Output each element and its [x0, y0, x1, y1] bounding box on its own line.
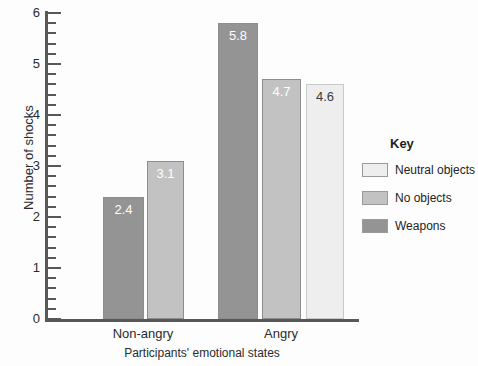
legend-item[interactable]: No objects — [362, 187, 474, 209]
y-axis-major-tick — [48, 12, 61, 14]
y-axis-tick-label: 5 — [10, 57, 40, 70]
legend-item-label: No objects — [395, 191, 452, 205]
y-axis-minor-tick — [48, 83, 56, 85]
bar: 4.6 — [306, 84, 344, 319]
y-axis-minor-tick — [48, 236, 56, 238]
legend-item[interactable]: Weapons — [362, 215, 474, 237]
y-axis-tick-label-wrap: 0 — [8, 312, 40, 325]
y-axis-minor-tick — [48, 145, 56, 147]
y-axis-major-tick — [48, 165, 61, 167]
legend-swatch — [362, 219, 388, 233]
y-axis-minor-tick — [48, 155, 56, 157]
y-axis-tick-label-wrap: 6 — [8, 6, 40, 19]
x-axis-title: Participants' emotional states — [45, 346, 359, 360]
y-axis-major-tick — [48, 216, 61, 218]
y-axis-tick-label-wrap: 1 — [8, 261, 40, 274]
y-axis-minor-tick — [48, 226, 56, 228]
y-axis-minor-tick — [48, 53, 56, 55]
y-axis-major-tick — [48, 267, 61, 269]
y-axis-minor-tick — [48, 257, 56, 259]
legend-item-label: Weapons — [395, 219, 445, 233]
bar-chart: 0123456 Number of shocks Non-angryAngry … — [0, 0, 478, 366]
bar-value-label: 2.4 — [104, 202, 143, 217]
y-axis-minor-tick — [48, 196, 56, 198]
x-axis-category-label: Non-angry — [83, 326, 203, 341]
y-axis-minor-tick — [48, 22, 56, 24]
y-axis-minor-tick — [48, 104, 56, 106]
y-axis-minor-tick — [48, 32, 56, 34]
y-axis-tick-label: 6 — [10, 6, 40, 19]
bar-value-label: 3.1 — [148, 166, 183, 181]
y-axis-minor-tick — [48, 43, 56, 45]
bar: 3.1 — [147, 161, 184, 319]
y-axis-tick-label: 1 — [10, 261, 40, 274]
legend-title: Key — [390, 136, 474, 151]
legend-item-label: Neutral objects — [395, 163, 475, 177]
y-axis-minor-tick — [48, 277, 56, 279]
bar-value-label: 4.6 — [307, 89, 343, 104]
y-axis-minor-tick — [48, 185, 56, 187]
y-axis-title: Number of shocks — [21, 78, 36, 238]
y-axis-minor-tick — [48, 308, 56, 310]
legend-swatch — [362, 163, 388, 177]
bar: 5.8 — [218, 23, 258, 319]
y-axis-minor-tick — [48, 206, 56, 208]
y-axis-tick-label: 0 — [10, 312, 40, 325]
legend-swatch — [362, 191, 388, 205]
y-axis-minor-tick — [48, 298, 56, 300]
bar: 4.7 — [262, 79, 301, 319]
y-axis-minor-tick — [48, 287, 56, 289]
bar-value-label: 4.7 — [263, 84, 300, 99]
y-axis-minor-tick — [48, 94, 56, 96]
y-axis-minor-tick — [48, 247, 56, 249]
x-axis-category-label: Angry — [221, 326, 341, 341]
bar: 2.4 — [103, 197, 144, 319]
legend-item[interactable]: Neutral objects — [362, 159, 474, 181]
legend: Key Neutral objectsNo objectsWeapons — [362, 136, 474, 243]
x-axis-line — [45, 319, 359, 322]
y-axis-minor-tick — [48, 134, 56, 136]
bar-value-label: 5.8 — [219, 28, 257, 43]
y-axis-tick-label-wrap: 5 — [8, 57, 40, 70]
y-axis-major-tick — [48, 63, 61, 65]
y-axis-minor-tick — [48, 175, 56, 177]
y-axis-major-tick — [48, 114, 61, 116]
y-axis-minor-tick — [48, 73, 56, 75]
y-axis-minor-tick — [48, 124, 56, 126]
legend-rows: Neutral objectsNo objectsWeapons — [362, 159, 474, 237]
